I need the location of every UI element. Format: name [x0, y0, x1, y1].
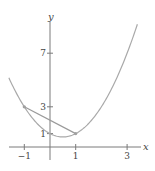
chart: −113137 x y: [0, 0, 155, 171]
x-tick-label: −1: [18, 151, 31, 161]
y-tick-label: 7: [40, 48, 46, 58]
x-axis-label: x: [143, 141, 149, 152]
ticks: −113137: [18, 48, 131, 161]
curve-line: [9, 24, 138, 137]
data-point: [23, 105, 26, 108]
y-tick-label: 3: [40, 102, 46, 112]
x-tick-label: 3: [124, 151, 130, 161]
x-tick-label: 1: [73, 151, 79, 161]
axes: [9, 22, 141, 160]
plot-area: [9, 24, 138, 137]
data-point: [74, 132, 77, 135]
y-axis-label: y: [47, 11, 54, 22]
